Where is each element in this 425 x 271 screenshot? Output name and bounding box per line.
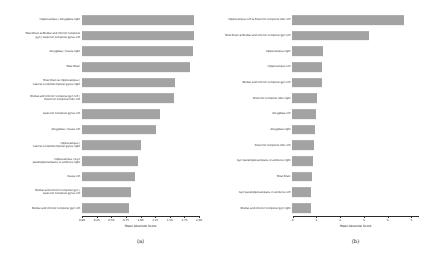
bar-row: Total Brain: [0, 59, 213, 75]
x-tick-label: 2: [339, 218, 341, 222]
bar-category-label: Gyri parahippocampalis et ambiens left: [213, 191, 293, 194]
bar: [292, 31, 369, 41]
bar-category-label: Medial and inferior temporal gyri right: [213, 207, 293, 210]
bar-category-label: Hippocampus left & Posterior temporal lo…: [213, 18, 293, 21]
bar-row: Hippocampus left & Posterior temporal lo…: [213, 12, 425, 28]
bar: [292, 141, 314, 151]
bar: [82, 46, 193, 56]
bar-track: [82, 122, 213, 138]
bar-row: Medial and inferior temporal gyri right: [213, 200, 425, 216]
bar-track: [292, 169, 425, 185]
x-tick-label: 1.25: [152, 218, 158, 222]
x-tick-label: 1.75: [181, 218, 187, 222]
bar-category-label: Total Brain: [213, 175, 293, 178]
bar-category-label: Total Brain & Medial and inferior tempor…: [0, 32, 82, 38]
bar-track: [292, 122, 425, 138]
bar: [292, 78, 321, 88]
bar-category-label: Gyri parahippocampalis et ambiens right: [213, 159, 293, 162]
bar-category-label: Amygdala | Insula left: [0, 128, 82, 131]
bar-track: [82, 169, 213, 185]
bar-category-label: Amygdala right: [213, 128, 293, 131]
bar-row: Hippocampus | Lateral occipitotemporal g…: [0, 138, 213, 154]
bar-row: Medial and inferior temporal gyri left |…: [0, 90, 213, 106]
bar-track: [82, 200, 213, 216]
bar-row: Superior temporal gyrus left: [0, 106, 213, 122]
x-tick-mark: [411, 216, 412, 218]
panel-a-bar-rows: Hippocampus | Amygdala rightTotal Brain …: [0, 0, 213, 271]
bar-track: [292, 59, 425, 75]
bar-row: Insula left: [0, 169, 213, 185]
bar-track: [82, 75, 213, 91]
x-tick-mark: [293, 216, 294, 218]
x-tick-mark: [199, 216, 200, 218]
bar-track: [82, 185, 213, 201]
x-tick-mark: [155, 216, 156, 218]
x-tick-mark: [364, 216, 365, 218]
bar-row: Amygdala | Insula left: [0, 122, 213, 138]
bar-row: Total Brain & Medial and inferior tempor…: [0, 28, 213, 44]
bar-category-label: Hippocampus | Lateral occipitotemporal g…: [0, 142, 82, 148]
bar: [82, 15, 195, 25]
bar-category-label: Medial and inferior temporal gyri left: [0, 207, 82, 210]
x-tick-label: 0: [292, 218, 294, 222]
bar-row: Amygdala | Insula right: [0, 43, 213, 59]
x-tick-mark: [141, 216, 142, 218]
x-tick-label: 0.25: [94, 218, 100, 222]
x-tick-label: 1.50: [167, 218, 173, 222]
bar-track: [82, 153, 213, 169]
bar-track: [292, 200, 425, 216]
bar-category-label: Insula left: [0, 175, 82, 178]
bar-row: Gyri parahippocampalis et ambiens right: [213, 153, 425, 169]
x-tick-label: 4: [387, 218, 389, 222]
x-tick-mark: [111, 216, 112, 218]
bar-category-label: Hippocampus | Amygdala right: [0, 18, 82, 21]
bar-category-label: Total Brain: [0, 65, 82, 68]
bar-track: [292, 28, 425, 44]
bar: [82, 203, 129, 213]
bar-row: Posterior temporal lobe right: [213, 90, 425, 106]
bar-row: Medial and inferior temporal gyri | Supe…: [0, 185, 213, 201]
bar-row: Medial and inferior temporal gyri left: [0, 200, 213, 216]
x-tick-mark: [340, 216, 341, 218]
bar-category-label: Hippocampus left: [213, 65, 293, 68]
panel-a-x-axis-title: Mean Absolute Score: [82, 224, 199, 228]
bar-row: Total Brain & Medial and inferior tempor…: [213, 28, 425, 44]
x-tick-label: 5: [411, 218, 413, 222]
bar: [292, 156, 312, 166]
bar-track: [292, 106, 425, 122]
x-tick-mark: [388, 216, 389, 218]
bar-track: [82, 59, 213, 75]
bar: [292, 172, 311, 182]
bar: [292, 109, 316, 119]
bar-track: [292, 12, 425, 28]
bar: [292, 203, 311, 213]
bar-row: Hippocampus | Gyri parahippocampalis et …: [0, 153, 213, 169]
bar-track: [292, 185, 425, 201]
bar: [292, 93, 317, 103]
bar-track: [292, 90, 425, 106]
x-tick-mark: [97, 216, 98, 218]
bar-row: Hippocampus | Amygdala right: [0, 12, 213, 28]
x-tick-label: 1.00: [138, 218, 144, 222]
bar-category-label: Superior temporal gyrus left: [0, 112, 82, 115]
bar-row: Total Brain & Hippocampus | Lateral occi…: [0, 75, 213, 91]
bar-category-label: Total Brain & Medial and inferior tempor…: [213, 34, 293, 37]
bar-category-label: Hippocampus right: [213, 50, 293, 53]
bar-track: [292, 43, 425, 59]
bar-track: [82, 43, 213, 59]
bar-category-label: Amygdala | Insula right: [0, 50, 82, 53]
figure-two-panel-bar-charts: Hippocampus | Amygdala rightTotal Brain …: [0, 0, 425, 271]
bar-category-label: Hippocampus | Gyri parahippocampalis et …: [0, 158, 82, 164]
panel-b-bar-rows: Hippocampus left & Posterior temporal lo…: [213, 0, 425, 271]
bar: [82, 188, 131, 198]
x-tick-mark: [170, 216, 171, 218]
bar-category-label: Total Brain & Hippocampus | Lateral occi…: [0, 79, 82, 85]
x-tick-label: 2.00: [196, 218, 202, 222]
bar: [82, 172, 136, 182]
bar-track: [292, 75, 425, 91]
bar: [292, 188, 311, 198]
x-tick-mark: [184, 216, 185, 218]
x-tick-mark: [82, 216, 83, 218]
bar-row: Amygdala right: [213, 122, 425, 138]
bar-track: [82, 12, 213, 28]
